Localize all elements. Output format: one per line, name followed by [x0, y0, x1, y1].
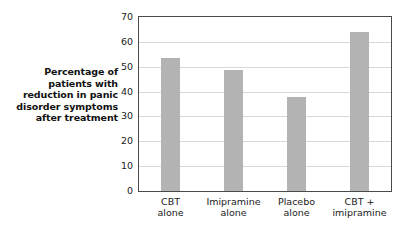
y-axis-title-line-3: reduction in panic [6, 89, 118, 101]
y-tick-label-10: 10 [108, 161, 133, 171]
y-tick-label-30: 30 [108, 111, 133, 121]
y-tick-label-20: 20 [108, 136, 133, 146]
y-axis-title-line-4: disorder symptoms [6, 101, 118, 113]
x-category-line: alone [265, 207, 328, 218]
bar-3 [350, 32, 369, 191]
x-category-label-cbt-alone: CBT alone [139, 196, 202, 218]
y-axis-title-line-2: patients with [6, 78, 118, 90]
x-category-line: Imipramine [202, 196, 265, 207]
bar-1 [224, 70, 243, 191]
y-tick-label-70: 70 [108, 12, 133, 22]
y-axis-title-line-1: Percentage of [6, 66, 118, 78]
plot-area [138, 16, 392, 192]
y-axis-title: Percentage of patients with reduction in… [6, 66, 118, 124]
x-category-line: CBT [139, 196, 202, 207]
x-category-line: CBT + [328, 196, 391, 207]
y-tick-label-50: 50 [108, 62, 133, 72]
y-axis-title-line-5: after treatment [6, 112, 118, 124]
x-category-line: Placebo [265, 196, 328, 207]
y-tick-label-40: 40 [108, 87, 133, 97]
x-category-label-placebo-alone: Placebo alone [265, 196, 328, 218]
bar-2 [287, 97, 306, 191]
x-category-line: imipramine [328, 207, 391, 218]
y-tick-label-0: 0 [108, 186, 133, 196]
y-tick-label-60: 60 [108, 37, 133, 47]
x-category-line: alone [202, 207, 265, 218]
x-category-label-cbt-plus-imipramine: CBT + imipramine [328, 196, 391, 218]
x-category-label-imipramine-alone: Imipramine alone [202, 196, 265, 218]
bar-chart-figure: Percentage of patients with reduction in… [0, 0, 407, 232]
bar-0 [161, 58, 180, 191]
x-category-line: alone [139, 207, 202, 218]
